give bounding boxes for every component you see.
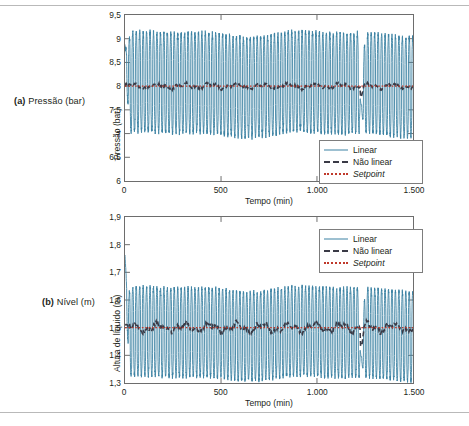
legend-entry-nonlinear: Não linear	[324, 245, 417, 257]
chart-pressure-xlabel: Tempo (min)	[124, 196, 414, 206]
legend-key-dotted-line-icon	[324, 258, 348, 268]
legend-label-linear: Linear	[353, 145, 377, 156]
xtick: 0	[122, 387, 127, 397]
legend-key-solid-line-icon	[324, 234, 348, 244]
chart-level-legend: Linear Não linear Setpoint	[319, 229, 423, 273]
legend-entry-setpoint: Setpoint	[324, 168, 417, 180]
chart-level-xlabel: Tempo (min)	[124, 398, 414, 408]
ytick: 6	[116, 176, 121, 186]
ytick: 8,5	[109, 57, 121, 67]
chart-pressure-legend: Linear Não linear Setpoint	[319, 140, 423, 184]
legend-key-solid-line-icon	[324, 145, 348, 155]
ytick: 6,5	[109, 152, 121, 162]
legend-label-setpoint: Setpoint	[353, 169, 385, 180]
ytick: 8	[116, 81, 121, 91]
xtick: 1.500	[404, 185, 425, 195]
legend-key-dashed-line-icon	[324, 246, 348, 256]
legend-entry-linear: Linear	[324, 233, 417, 245]
legend-entry-nonlinear: Não linear	[324, 156, 417, 168]
legend-label-nonlinear: Não linear	[353, 246, 392, 257]
legend-label-nonlinear: Não linear	[353, 157, 392, 168]
xtick: 0	[122, 185, 127, 195]
ytick: 1,4	[109, 350, 121, 360]
panel-caption-b-tag: (b)	[42, 297, 54, 307]
legend-key-dotted-line-icon	[324, 169, 348, 179]
ytick: 1,9	[109, 212, 121, 222]
legend-label-linear: Linear	[353, 234, 377, 245]
figure-page: (a) Pressão (bar) (b) Nível (m) Pressão …	[0, 0, 469, 426]
ytick: 7	[116, 129, 121, 139]
bottom-divider-rule	[0, 412, 469, 413]
xtick: 1.500	[404, 387, 425, 397]
panel-caption-b: (b) Nível (m)	[42, 297, 95, 307]
ytick: 1,3	[109, 378, 121, 388]
xtick: 1.000	[307, 185, 328, 195]
ytick: 9,5	[109, 10, 121, 20]
legend-entry-linear: Linear	[324, 144, 417, 156]
ytick: 1,5	[109, 323, 121, 333]
xtick: 1.000	[307, 387, 328, 397]
chart-pressure: Pressão (bar) 9,5 9 8,5 8 7,5 7 6,5 6	[100, 10, 440, 206]
top-divider-rule	[0, 5, 469, 6]
ytick: 9	[116, 34, 121, 44]
ytick: 1,6	[109, 295, 121, 305]
xtick: 500	[214, 387, 228, 397]
panel-caption-a-tag: (a)	[14, 96, 26, 106]
legend-label-setpoint: Setpoint	[353, 258, 385, 269]
series-linear-level	[125, 255, 413, 383]
panel-caption-a-text: Pressão (bar)	[26, 96, 86, 106]
ytick: 1,7	[109, 267, 121, 277]
legend-entry-setpoint: Setpoint	[324, 257, 417, 269]
panel-caption-b-text: Nível (m)	[54, 297, 95, 307]
legend-key-dashed-line-icon	[324, 157, 348, 167]
chart-level-ytick-column: 1,9 1,8 1,7 1,6 1,5 1,4 1,3	[100, 212, 121, 388]
chart-pressure-ytick-column: 9,5 9 8,5 8 7,5 7 6,5 6	[100, 10, 121, 186]
xtick: 500	[214, 185, 228, 195]
ytick: 7,5	[109, 105, 121, 115]
panel-caption-a: (a) Pressão (bar)	[14, 96, 85, 106]
chart-level: Altura de líquido (m) 1,9 1,8 1,7 1,6 1,…	[100, 212, 440, 408]
ytick: 1,8	[109, 240, 121, 250]
